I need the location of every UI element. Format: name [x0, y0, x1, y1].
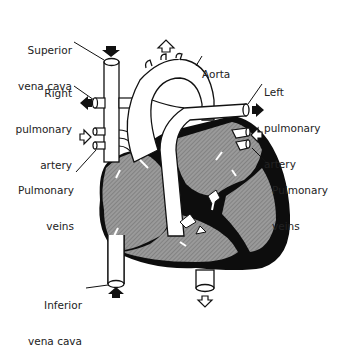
label-line: veins: [4, 220, 74, 232]
arrow-up-filled-icon: [108, 287, 124, 298]
label-line: Inferior: [4, 299, 82, 311]
label-line: Pulmonary: [4, 184, 74, 196]
label-line: veins: [272, 220, 328, 232]
arrow-down-filled-icon: [102, 46, 120, 57]
label-line: pulmonary: [264, 122, 321, 134]
label-line: Right: [4, 87, 72, 99]
arrow-down-open-icon: [198, 296, 212, 307]
arrow-right-filled-icon: [252, 103, 264, 117]
label-pulmonary-veins-left: Pulmonary veins: [272, 160, 328, 256]
label-line: Superior: [4, 44, 72, 56]
arrow-right-open-icon: [80, 130, 91, 144]
label-line: pulmonary: [4, 123, 72, 135]
label-inferior-vena-cava: Inferior vena cava: [4, 275, 82, 349]
descending-aorta-vessel: [196, 270, 214, 292]
label-line: vena cava: [4, 335, 82, 347]
label-line: Left: [264, 86, 321, 98]
label-line: Aorta: [202, 68, 230, 80]
label-pulmonary-veins-right: Pulmonary veins: [4, 160, 74, 256]
label-line: Pulmonary: [272, 184, 328, 196]
label-aorta: Aorta: [202, 44, 230, 104]
arrow-up-open-icon: [158, 40, 174, 52]
arrow-left-filled-icon: [80, 96, 92, 110]
